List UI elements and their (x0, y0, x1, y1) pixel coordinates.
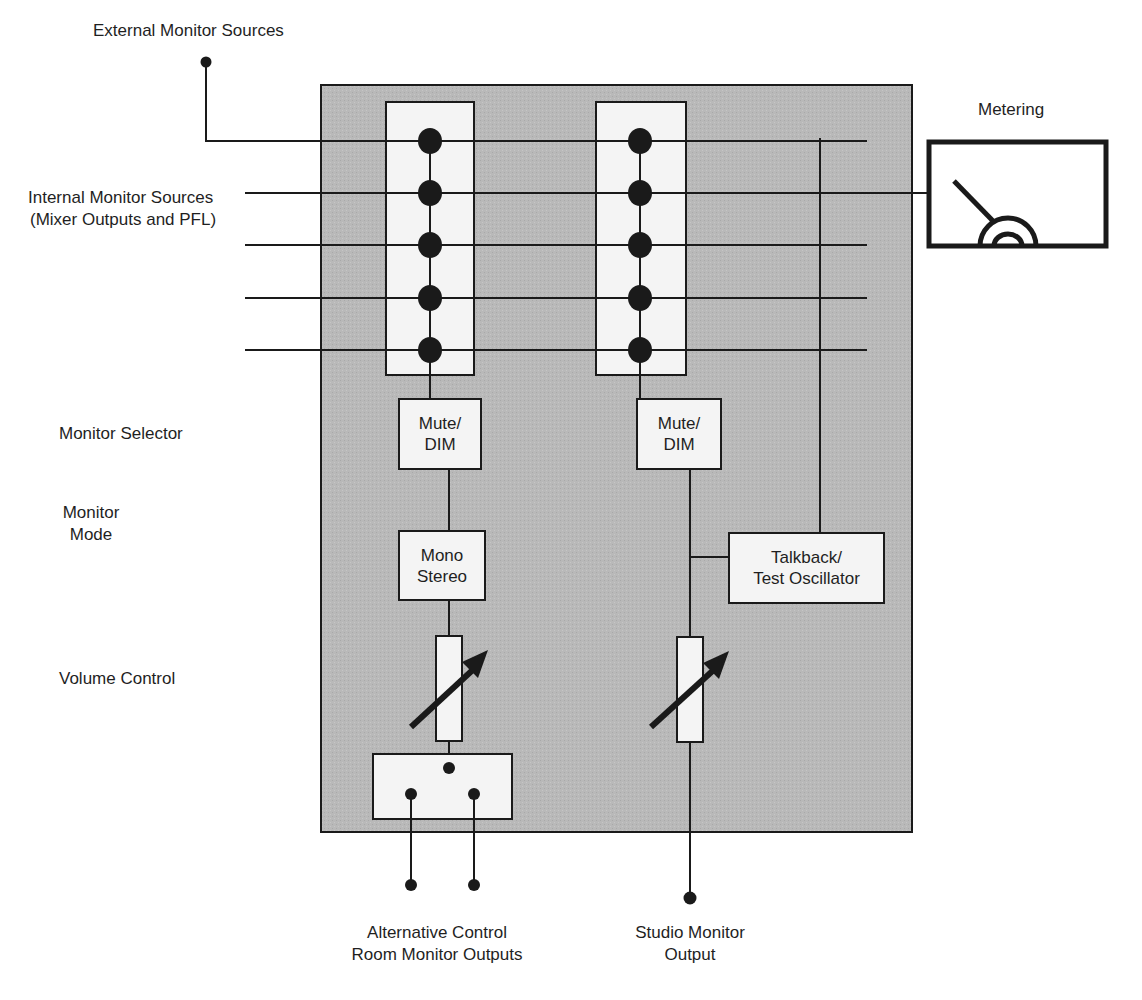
mute-dim-a-line2: DIM (419, 434, 462, 455)
metering-label: Metering (978, 99, 1044, 121)
switch-common-terminal (443, 762, 455, 774)
monitor-mode-line1: Monitor (56, 502, 126, 524)
studio-output-line1: Studio Monitor (615, 922, 765, 944)
alt-output-terminal-1 (405, 879, 417, 891)
external-sources-label: External Monitor Sources (93, 20, 284, 42)
mute-dim-b-line2: DIM (658, 434, 701, 455)
mono-stereo-label: Mono Stereo (400, 532, 484, 599)
monitor-mode-line2: Mode (56, 524, 126, 546)
monitor-selector-label: Monitor Selector (59, 423, 183, 445)
talkback-line2: Test Oscillator (753, 568, 860, 589)
internal-sources-line2: (Mixer Outputs and PFL) (28, 209, 216, 231)
diagram-canvas (0, 0, 1142, 1000)
studio-output-line2: Output (615, 944, 765, 966)
talkback-label: Talkback/ Test Oscillator (730, 534, 883, 602)
alt-outputs-line2: Room Monitor Outputs (332, 944, 542, 966)
talkback-line1: Talkback/ (753, 547, 860, 568)
alt-outputs-line1: Alternative Control (332, 922, 542, 944)
internal-sources-label: Internal Monitor Sources (Mixer Outputs … (28, 187, 216, 231)
mute-dim-b-label: Mute/ DIM (638, 400, 720, 468)
studio-output-terminal (684, 892, 697, 905)
mono-stereo-line1: Mono (417, 545, 467, 566)
monitor-mode-label: Monitor Mode (56, 502, 126, 546)
mute-dim-a-label: Mute/ DIM (400, 400, 480, 468)
meter-box (929, 142, 1106, 246)
volume-control-label: Volume Control (59, 668, 175, 690)
mono-stereo-line2: Stereo (417, 566, 467, 587)
studio-output-label: Studio Monitor Output (615, 922, 765, 966)
output-switch-block (373, 754, 512, 819)
internal-sources-line1: Internal Monitor Sources (28, 187, 216, 209)
alt-outputs-label: Alternative Control Room Monitor Outputs (332, 922, 542, 966)
external-source-terminal (201, 57, 212, 68)
mute-dim-a-line1: Mute/ (419, 413, 462, 434)
mute-dim-b-line1: Mute/ (658, 413, 701, 434)
alt-output-terminal-2 (468, 879, 480, 891)
